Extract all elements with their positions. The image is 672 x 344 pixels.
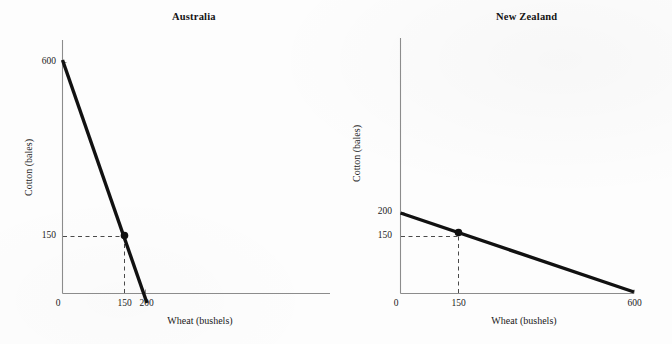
ppf-line-australia bbox=[63, 60, 148, 303]
y-tick-label-200-newzealand: 200 bbox=[364, 206, 392, 216]
x-axis-title-australia: Wheat (bushels) bbox=[140, 315, 260, 326]
x-tick-label-0-australia: 0 bbox=[48, 298, 68, 308]
figure-page: Australia 600 150 0 150 200 Cot bbox=[0, 0, 672, 344]
chart-plot-newzealand bbox=[336, 0, 672, 344]
chart-panel-newzealand: New Zealand 200 150 0 150 600 C bbox=[336, 0, 672, 344]
x-tick-label-600-newzealand: 600 bbox=[619, 298, 650, 308]
ppf-line-newzealand bbox=[401, 213, 635, 292]
y-tick-label-150-australia: 150 bbox=[28, 230, 56, 240]
x-tick-label-0-newzealand: 0 bbox=[386, 298, 406, 308]
production-point-newzealand[interactable] bbox=[455, 229, 463, 237]
x-tick-label-200-australia: 200 bbox=[131, 298, 162, 308]
y-axis-title-australia: Cotton (bales) bbox=[23, 118, 34, 218]
x-axis-title-newzealand: Wheat (bushels) bbox=[464, 315, 584, 326]
chart-plot-australia bbox=[0, 0, 340, 344]
y-tick-label-600-australia: 600 bbox=[28, 56, 56, 66]
y-axis-title-newzealand: Cotton (bales) bbox=[351, 104, 362, 204]
y-tick-label-150-newzealand: 150 bbox=[364, 230, 392, 240]
x-tick-label-150-newzealand: 150 bbox=[443, 298, 474, 308]
production-point-australia[interactable] bbox=[121, 232, 129, 240]
chart-panel-australia: Australia 600 150 0 150 200 Cot bbox=[0, 0, 340, 344]
